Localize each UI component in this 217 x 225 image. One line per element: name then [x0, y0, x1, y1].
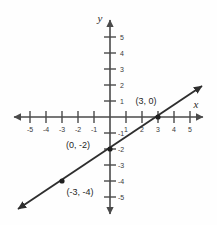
x-tick-label-5: 5	[188, 126, 192, 133]
y-tick-label-3: 3	[120, 66, 124, 73]
x-tick-label-neg3: -3	[59, 126, 65, 133]
x-tick-label-neg2: -2	[75, 126, 81, 133]
annotation-label-3-0: (3, 0)	[135, 96, 156, 106]
y-tick-label-neg1: -1	[118, 130, 124, 137]
y-tick-label-neg3: -3	[118, 162, 124, 169]
x-tick-label-3: 3	[156, 126, 160, 133]
y-tick-label-neg5: -5	[118, 194, 124, 201]
y-tick-label-4: 4	[120, 50, 124, 57]
x-tick-label-neg4: -4	[43, 126, 49, 133]
x-tick-label-1: 1	[124, 126, 128, 133]
graph-canvas: -5 -4 -3 -2 -1 1 2 3 4 5 5 4 3 2 1 -1 -2…	[0, 0, 217, 225]
y-tick-label-2: 2	[120, 82, 124, 89]
y-tick-label-neg4: -4	[118, 178, 124, 185]
x-tick-label-neg1: -1	[91, 126, 97, 133]
x-tick-label-4: 4	[172, 126, 176, 133]
data-point-neg3-neg4	[59, 178, 64, 183]
y-axis-label: y	[97, 12, 103, 24]
x-tick-label-neg5: -5	[27, 126, 33, 133]
x-axis-label: x	[193, 98, 199, 110]
y-tick-label-5: 5	[120, 34, 124, 41]
data-point-3-0	[155, 114, 160, 119]
data-point-0-neg2	[107, 146, 112, 151]
y-tick-label-neg2: -2	[118, 146, 124, 153]
y-tick-label-1: 1	[120, 98, 124, 105]
annotation-label-neg3-neg4: (-3, -4)	[67, 187, 94, 197]
coordinate-plane-graph: -5 -4 -3 -2 -1 1 2 3 4 5 5 4 3 2 1 -1 -2…	[0, 0, 217, 225]
annotation-label-0-neg2: (0, -2)	[66, 140, 90, 150]
